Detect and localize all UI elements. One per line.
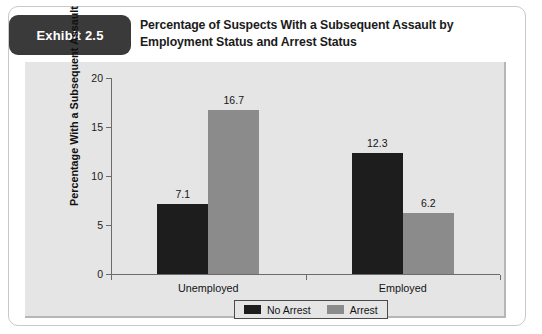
bar-employed-no-arrest [352, 153, 403, 274]
bar-employed-arrest [403, 213, 454, 274]
chart-plot-panel: Percentage With a Subsequent Assault 051… [25, 62, 506, 318]
x-axis-group-label: Employed [379, 282, 427, 294]
legend-label-no-arrest: No Arrest [267, 304, 311, 316]
legend-label-arrest: Arrest [350, 304, 378, 316]
x-axis-tick [111, 275, 112, 280]
y-axis-tick-label: 5 [73, 219, 103, 231]
legend-swatch-arrest-icon [327, 305, 344, 314]
legend-swatch-no-arrest-icon [244, 305, 261, 314]
bar-unemployed-no-arrest [157, 204, 208, 274]
x-axis-tick [500, 275, 501, 280]
legend-item-arrest: Arrest [327, 304, 378, 316]
bar-unemployed-arrest [208, 110, 259, 274]
exhibit-card: Exhibit 2.5 Percentage of Suspects With … [8, 6, 526, 326]
y-axis-tick-label: 10 [73, 170, 103, 182]
x-axis-group-label: Unemployed [178, 282, 239, 294]
y-axis-tick-label: 20 [73, 72, 103, 84]
chart-legend: No Arrest Arrest [234, 300, 388, 319]
bar-value-label: 6.2 [421, 197, 436, 209]
chart-plot-area: 7.116.712.36.2 [111, 77, 499, 274]
bar-value-label: 7.1 [175, 188, 190, 200]
y-axis-tick [106, 78, 112, 79]
y-axis-tick-label: 15 [73, 121, 103, 133]
bar-value-label: 16.7 [224, 94, 244, 106]
y-axis-tick [106, 176, 112, 177]
x-axis-tick [306, 275, 307, 280]
exhibit-title: Percentage of Suspects With a Subsequent… [140, 17, 512, 50]
bar-value-label: 12.3 [367, 137, 387, 149]
legend-item-no-arrest: No Arrest [244, 304, 311, 316]
y-axis-tick [106, 127, 112, 128]
y-axis-tick-labels: 05101520 [69, 62, 103, 318]
y-axis-tick [106, 225, 112, 226]
y-axis-tick-label: 0 [73, 268, 103, 280]
